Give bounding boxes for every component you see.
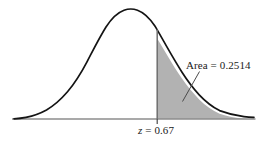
z-numeric-value: 0.67 (154, 124, 174, 136)
normal-distribution-figure: Area = 0.2514 z = 0.67 (0, 0, 261, 147)
area-callout-text: Area = 0.2514 (186, 59, 251, 71)
shaded-right-tail-region (157, 39, 254, 119)
area-callout-label: Area = 0.2514 (186, 59, 251, 71)
normal-curve-plot (0, 0, 261, 147)
z-value-label: z = 0.67 (138, 124, 174, 136)
z-equals-sign: = (142, 124, 154, 136)
